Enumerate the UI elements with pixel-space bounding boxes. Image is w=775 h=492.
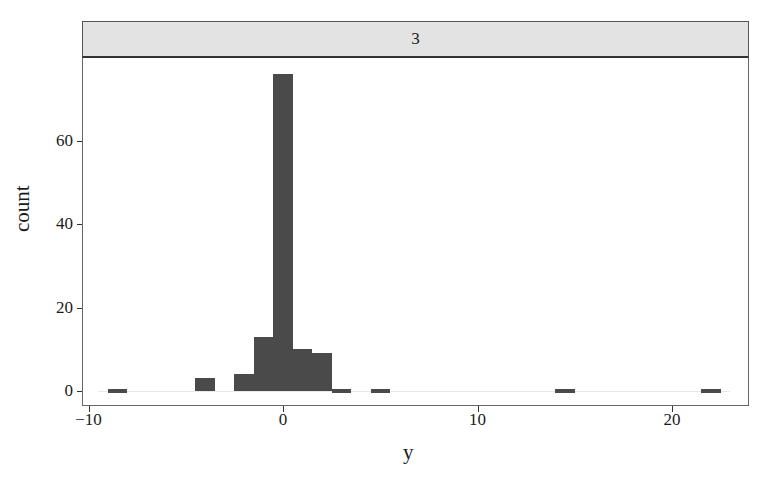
histogram-bar [371, 389, 390, 393]
x-tick-label: 0 [253, 410, 313, 430]
x-tick-label: 20 [642, 410, 702, 430]
histogram-bar [312, 353, 331, 391]
facet-label: 3 [411, 29, 420, 49]
histogram-bar [273, 74, 292, 391]
histogram-bar [234, 374, 253, 391]
y-tick-label: 0 [33, 381, 73, 401]
y-tick [77, 224, 82, 225]
histogram-bar [254, 337, 273, 391]
histogram-bar [293, 349, 312, 391]
y-tick [77, 308, 82, 309]
y-tick-label: 40 [33, 214, 73, 234]
y-tick [77, 391, 82, 392]
y-tick-label: 60 [33, 131, 73, 151]
histogram-bar [195, 378, 214, 391]
histogram-bar [108, 389, 127, 393]
plot-panel [82, 58, 749, 406]
x-tick-label: 10 [448, 410, 508, 430]
histogram-bar [332, 389, 351, 393]
x-tick-label: −10 [59, 410, 119, 430]
y-tick-label: 20 [33, 298, 73, 318]
y-axis-label: count [10, 152, 35, 232]
histogram-bar [701, 389, 720, 393]
histogram-bar [555, 389, 574, 393]
y-tick [77, 141, 82, 142]
zero-baseline [98, 391, 730, 392]
x-axis-label: y [403, 440, 414, 465]
facet-strip: 3 [82, 21, 749, 58]
